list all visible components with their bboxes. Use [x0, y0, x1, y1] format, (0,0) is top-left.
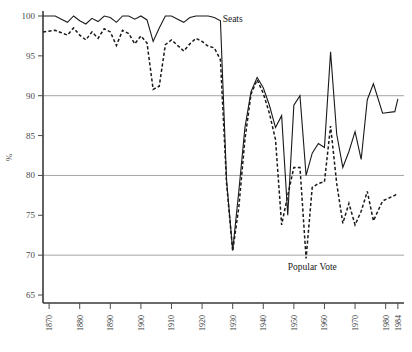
y-tick-label: 65: [26, 290, 36, 300]
x-tick-label: 1930: [229, 315, 238, 331]
x-tick-label: 1880: [76, 315, 85, 331]
annotation-popular-vote: Popular Vote: [288, 262, 337, 272]
x-tick-label: 1910: [167, 315, 176, 331]
x-tick-label: 1960: [320, 315, 329, 331]
y-tick-label: 80: [26, 170, 36, 180]
y-tick-label: 95: [26, 51, 36, 61]
y-axis-title: %: [4, 153, 14, 161]
chart-container: 1009590858075706518701880189019001910192…: [0, 0, 412, 352]
y-tick-label: 90: [26, 91, 36, 101]
y-tick-label: 85: [26, 131, 36, 141]
y-tick-label: 100: [22, 11, 36, 21]
x-tick-label: 1970: [351, 315, 360, 331]
x-tick-label: 1980: [382, 315, 391, 331]
y-tick-label: 75: [26, 210, 36, 220]
line-chart: 1009590858075706518701880189019001910192…: [0, 0, 412, 352]
series-line-popular-vote: [43, 28, 398, 258]
x-tick-label: 1920: [198, 315, 207, 331]
x-tick-label: 1984: [394, 315, 403, 331]
x-tick-label: 1950: [290, 315, 299, 331]
x-tick-label: 1870: [45, 315, 54, 331]
annotation-seats: Seats: [223, 14, 243, 24]
y-tick-label: 70: [26, 250, 36, 260]
x-tick-label: 1940: [259, 315, 268, 331]
x-tick-label: 1900: [137, 315, 146, 331]
x-tick-label: 1890: [106, 315, 115, 331]
